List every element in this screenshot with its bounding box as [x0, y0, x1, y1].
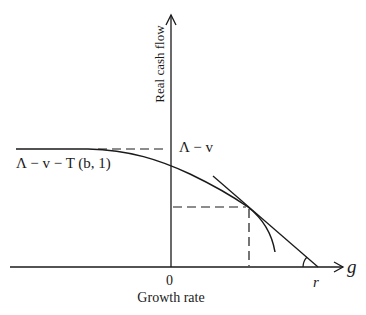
y-axis-label: Real cash flow	[152, 9, 168, 119]
tangent-line	[213, 176, 318, 267]
plateau-label: Λ − v − T (b, 1)	[16, 155, 111, 172]
origin-label: 0	[166, 273, 173, 289]
upper-level-label: Λ − v	[179, 139, 213, 156]
angle-arc	[303, 257, 307, 267]
x-axis-label: Growth rate	[121, 290, 221, 306]
x-axis-symbol: g	[347, 256, 357, 278]
intercept-label: r	[313, 274, 319, 291]
